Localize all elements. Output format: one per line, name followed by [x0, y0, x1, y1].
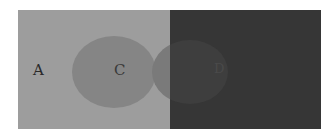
label-c: C: [114, 61, 125, 79]
label-d: D: [214, 61, 224, 76]
dark-panel-clip: [170, 10, 321, 129]
label-a: A: [33, 61, 44, 79]
contrast-figure: A C D: [18, 10, 321, 129]
circle-d-edge: [152, 40, 170, 104]
